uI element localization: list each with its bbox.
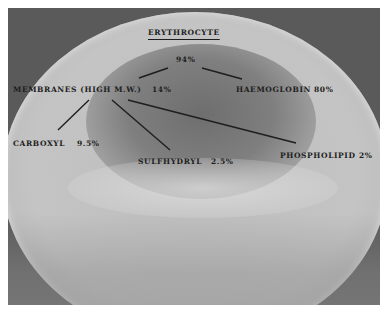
line-membranes-to-sulfhydryl [112,100,170,150]
sulfhydryl-value: 2.5% [211,157,234,166]
root-percentage: 94% [176,55,195,64]
carboxyl-value: 9.5% [77,139,100,148]
membranes-value: 14% [152,85,171,94]
membranes-label: MEMBRANES (HIGH M.W.) [13,85,141,94]
line-membranes-to-phospholipid [128,100,296,143]
line-root-to-haemoglobin [202,68,242,79]
line-root-to-membranes [139,68,168,78]
carboxyl-label: CARBOXYL [13,139,65,148]
sulfhydryl-label: SULFHYDRYL [138,157,202,166]
phospholipid-label: PHOSPHOLIPID [280,151,356,160]
phospholipid-value: 2% [359,151,373,160]
diagram-title: ERYTHROCYTE [148,28,220,37]
line-membranes-to-carboxyl [58,100,89,130]
haemoglobin-label: HAEMOGLOBIN [236,85,311,94]
haemoglobin-value: 80% [314,85,333,94]
